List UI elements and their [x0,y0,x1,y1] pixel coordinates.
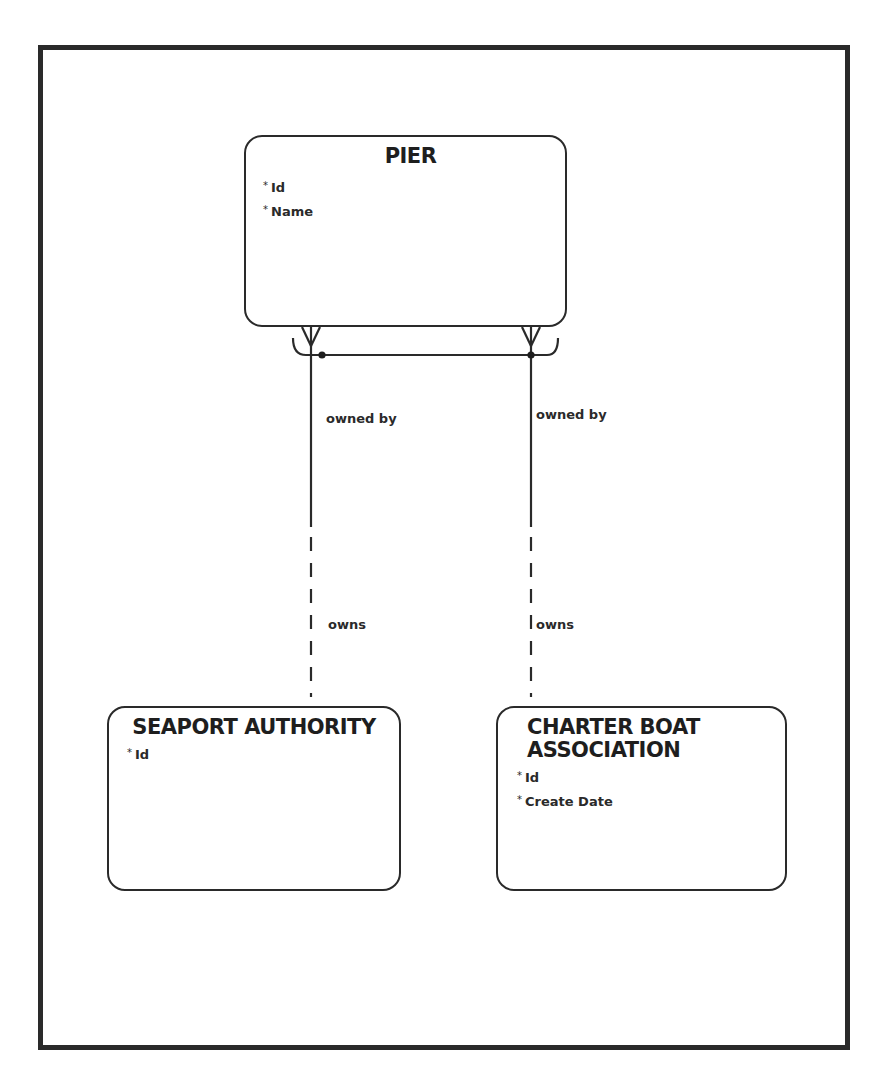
entity-pier[interactable]: PIER *Id *Name [244,135,567,327]
mandatory-marker: * [263,180,268,191]
entity-seaport-authority-title: SEAPORT AUTHORITY [109,716,399,739]
attribute-name: Name [271,204,313,219]
attribute-pier-id: *Id [263,175,313,199]
label-owned-by-seaport: owned by [326,411,397,426]
entity-pier-title: PIER [246,145,565,168]
attribute-charter-create-date: *Create Date [517,789,613,813]
arc-dot-left [318,351,325,358]
entity-charter-title-line1: CHARTER BOAT [527,716,700,739]
attribute-name: Id [135,747,149,762]
mandatory-marker: * [127,747,132,758]
mandatory-marker: * [517,794,522,805]
attribute-charter-id: *Id [517,765,613,789]
label-owned-by-charter: owned by [536,407,607,422]
label-owns-seaport: owns [328,617,366,632]
attribute-name: Create Date [525,794,613,809]
attribute-name: Id [271,180,285,195]
attribute-name: Id [525,770,539,785]
exclusive-arc [293,338,558,355]
mandatory-marker: * [263,204,268,215]
attribute-pier-name: *Name [263,199,313,223]
entity-seaport-authority[interactable]: SEAPORT AUTHORITY *Id [107,706,401,891]
mandatory-marker: * [517,770,522,781]
arc-dot-right [527,351,534,358]
entity-charter-boat-association[interactable]: CHARTER BOAT ASSOCIATION *Id *Create Dat… [496,706,787,891]
entity-charter-title-line2: ASSOCIATION [527,739,700,762]
attribute-seaport-id: *Id [127,742,149,766]
label-owns-charter: owns [536,617,574,632]
